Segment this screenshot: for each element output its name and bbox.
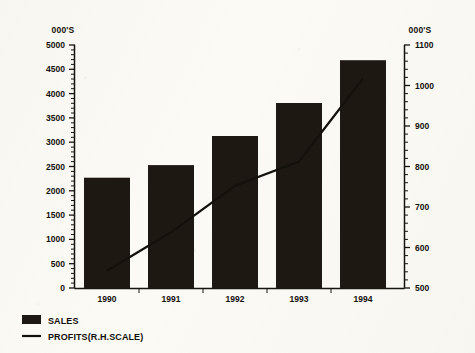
left-tick-label: 1000 <box>46 234 65 244</box>
bar-1990 <box>84 178 130 289</box>
left-tick-label: 4000 <box>46 89 65 99</box>
right-tick-label: 700 <box>415 202 429 212</box>
category-label-1992: 1992 <box>226 294 245 304</box>
left-tick-label: 1500 <box>46 210 65 220</box>
category-label-1993: 1993 <box>290 294 309 304</box>
right-axis-unit-label: 000'S <box>409 25 432 35</box>
chart-page: 000'S <box>0 0 475 353</box>
right-axis: 000'S <box>404 25 434 293</box>
sales-bar-series <box>84 60 386 288</box>
sales-profits-combo-chart: 000'S <box>0 0 475 353</box>
category-axis-labels: 1990 1991 1992 1993 1994 <box>98 294 373 304</box>
left-tick-label: 2000 <box>46 186 65 196</box>
bar-1991 <box>148 165 194 288</box>
right-tick-label: 800 <box>415 162 429 172</box>
right-tick-label: 600 <box>415 243 429 253</box>
bar-1993 <box>276 103 322 289</box>
legend-label-sales: SALES <box>48 316 79 326</box>
right-tick-label: 1000 <box>415 81 434 91</box>
bar-1994 <box>340 60 386 288</box>
legend-label-profits: PROFITS(R.H.SCALE) <box>48 332 143 342</box>
left-tick-label: 3500 <box>46 113 65 123</box>
chart-legend: SALES PROFITS(R.H.SCALE) <box>22 315 143 342</box>
category-label-1994: 1994 <box>354 294 373 304</box>
category-label-1991: 1991 <box>162 294 181 304</box>
right-tick-label: 1100 <box>415 40 434 50</box>
right-axis-tick-labels: 500 600 700 800 900 1000 1100 <box>415 40 434 293</box>
left-tick-label: 0 <box>60 283 65 293</box>
bar-1992 <box>212 136 258 289</box>
right-tick-label: 500 <box>415 283 429 293</box>
left-axis-unit-label: 000'S <box>52 25 75 35</box>
left-tick-label: 500 <box>51 259 65 269</box>
category-label-1990: 1990 <box>98 294 117 304</box>
left-tick-label: 2500 <box>46 162 65 172</box>
legend-swatch-sales-icon <box>22 315 41 324</box>
left-tick-label: 3000 <box>46 137 65 147</box>
right-tick-label: 900 <box>415 121 429 131</box>
left-axis: 000'S <box>46 25 75 293</box>
left-axis-tick-labels: 0 500 1000 1500 2000 2500 3000 3500 4000… <box>46 40 65 293</box>
left-tick-label: 4500 <box>46 64 65 74</box>
left-tick-label: 5000 <box>46 40 65 50</box>
